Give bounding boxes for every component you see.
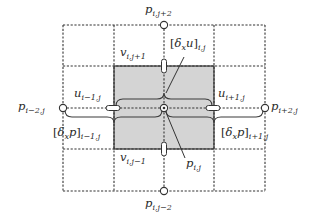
label-sub: i+1,j [225, 93, 244, 102]
v-arrow-bottom-icon [162, 142, 167, 156]
label-dxp-im1-j: [δxp]i−1,j [53, 127, 100, 141]
label-sub: i,j−1 [127, 157, 146, 166]
label-v-i-jp1: vi,j+1 [120, 47, 146, 61]
node-p-i-jm2-icon [160, 187, 167, 194]
label-sub: i+1,j [249, 132, 268, 141]
label-p-i-jp2: pi,j+2 [145, 4, 172, 18]
label-dxp-ip1-j: [δxp]i+1,j [221, 127, 268, 141]
label-sub: i−2,j [25, 106, 44, 115]
label-sub: i,j+2 [152, 9, 171, 18]
label-p-ip2-j: pi+2,j [271, 101, 298, 115]
label-p-i-jm2: pi,j−2 [145, 198, 172, 212]
u-arrow-left-icon [106, 106, 120, 111]
label-sub: i−1,j [81, 93, 100, 102]
label-dxu-i-j: [δxu]i,j [170, 38, 205, 52]
label-p-i-j: pi,j [186, 158, 201, 172]
node-p-i-jp2-icon [160, 21, 167, 28]
label-p-im2-j: pi−2,j [18, 101, 45, 115]
u-arrow-right-icon [206, 106, 220, 111]
v-arrow-top-icon [162, 59, 167, 73]
node-p-im2-j-icon [59, 104, 66, 111]
label-sub: i,j [193, 163, 201, 172]
label-sub: i,j [198, 43, 206, 52]
label-v-i-jm1: vi,j−1 [120, 152, 146, 166]
label-sub: i−1,j [81, 132, 100, 141]
node-p-ip2-j-icon [261, 104, 268, 111]
label-sub: i,j−2 [152, 203, 171, 212]
label-u-ip1-j: ui+1,j [218, 88, 245, 102]
node-p-i-j-center-dot-icon [163, 107, 166, 110]
label-sub: i+2,j [278, 106, 297, 115]
label-u-im1-j: ui−1,j [74, 88, 101, 102]
label-sub: i,j+1 [127, 52, 146, 61]
